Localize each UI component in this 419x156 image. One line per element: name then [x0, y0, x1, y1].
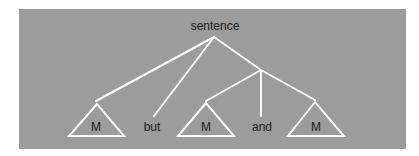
edge-subnode-to-m3 [261, 70, 315, 100]
leaf-label-m2: M [201, 120, 211, 134]
edge-subnode-to-m2 [206, 70, 261, 101]
tree-diagram: sentence M but M and M [0, 0, 419, 156]
leaf-label-but: but [144, 120, 161, 134]
edge-root-to-m1 [96, 37, 214, 101]
root-label: sentence [191, 19, 240, 33]
edge-root-to-subnode [214, 37, 261, 70]
leaf-label-and: and [252, 120, 272, 134]
leaf-label-m1: M [91, 120, 101, 134]
leaf-label-m3: M [311, 120, 321, 134]
